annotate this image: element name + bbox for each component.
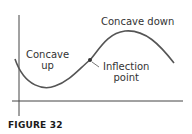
concave-up-line2: up (26, 60, 69, 71)
inflection-point-label: Inflection point (103, 61, 149, 83)
inflection-line1: Inflection (103, 61, 149, 72)
concave-up-label: Concave up (26, 49, 69, 71)
concave-down-label: Concave down (101, 16, 174, 27)
inflection-pointer-line (92, 62, 99, 67)
inflection-line2: point (103, 72, 149, 83)
figure-caption: FIGURE 32 (8, 120, 63, 130)
concave-up-line1: Concave (26, 49, 69, 60)
inflection-point-marker (88, 58, 92, 62)
